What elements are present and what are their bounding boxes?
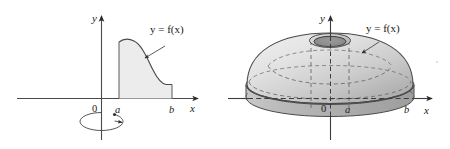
right-tick-b-label: b <box>404 104 409 115</box>
right-origin-label: 0 <box>321 103 326 114</box>
right-y-axis-label: y <box>319 12 325 24</box>
region-fill <box>119 39 172 98</box>
right-x-axis-label: x <box>423 104 429 116</box>
figure-root: y = f(x) 0 a b x y <box>0 0 450 149</box>
right-tick-a-label: a <box>345 104 350 115</box>
right-curve-label: y = f(x) <box>366 22 400 35</box>
rotation-arrowhead <box>115 121 123 122</box>
left-curve-label: y = f(x) <box>150 23 184 36</box>
left-curve-label-group: y = f(x) <box>145 23 184 58</box>
left-y-axis-label: y <box>91 12 97 24</box>
left-panel-figure: y = f(x) 0 a b x y <box>0 0 450 149</box>
left-tick-b-label: b <box>169 104 174 115</box>
left-tick-a-label: a <box>115 104 120 115</box>
left-leader-line <box>145 46 165 58</box>
left-shaded-region <box>119 39 172 98</box>
left-x-axis-label: x <box>189 102 195 114</box>
scan-speck <box>436 61 438 63</box>
